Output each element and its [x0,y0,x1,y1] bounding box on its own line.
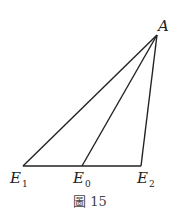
figure-15-diagram: A E1 E0 E2 圖 15 [0,0,180,222]
segment-e2-a [141,35,157,166]
vertex-label-e0: E0 [72,169,91,189]
triangle-lines [23,35,157,166]
segment-e1-a [23,35,157,166]
figure-caption: 圖 15 [73,194,107,209]
vertex-label-a: A [156,17,169,35]
vertex-label-e2: E2 [136,169,155,189]
vertex-label-e1: E1 [9,169,28,189]
segment-e0-a [82,35,157,166]
